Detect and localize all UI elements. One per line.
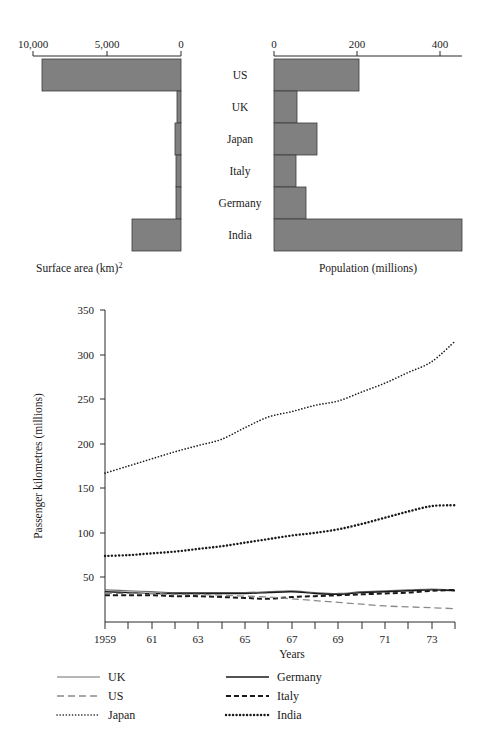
right-bar-germany	[274, 187, 306, 219]
category-label-japan: Japan	[227, 133, 253, 146]
x-axis-title: Years	[279, 648, 305, 660]
y-tick-labels-group: 350 300 250 200 150 100 50	[78, 304, 95, 583]
series-layer	[105, 341, 455, 608]
left-tick-label-2: 0	[178, 38, 184, 50]
left-tick-label-0: 10,000	[18, 38, 49, 50]
left-bar-italy	[176, 155, 181, 187]
population-pyramid-chart: 10,000 5,000 0 US UK Japan Italy Germany…	[0, 0, 494, 292]
y-tick-50: 50	[83, 571, 95, 583]
y-tick-200: 200	[78, 438, 95, 450]
series-line-japan	[105, 341, 455, 473]
category-label-us: US	[233, 69, 248, 81]
y-axis-title: Passenger kilometres (millions)	[32, 393, 45, 539]
chart-legend: UK US Japan Germany Italy India	[57, 670, 322, 722]
series-line-india	[105, 505, 455, 556]
right-tick-label-0: 0	[271, 38, 277, 50]
left-bar-japan	[175, 123, 181, 155]
right-bar-italy	[274, 155, 296, 187]
category-label-italy: Italy	[229, 165, 250, 178]
left-bar-uk	[177, 91, 181, 123]
figure-root: 10,000 5,000 0 US UK Japan Italy Germany…	[0, 0, 494, 738]
legend-label-italy: Italy	[277, 689, 299, 703]
category-label-uk: UK	[232, 101, 249, 113]
y-tick-100: 100	[78, 527, 95, 539]
right-bar-japan	[274, 123, 317, 155]
y-tick-300: 300	[78, 349, 95, 361]
x-tick-67: 67	[287, 633, 299, 645]
left-bar-us	[42, 59, 181, 91]
right-bar-india	[274, 219, 462, 251]
right-bars-group	[274, 59, 462, 251]
right-bar-uk	[274, 91, 297, 123]
y-tick-150: 150	[78, 482, 95, 494]
legend-label-india: India	[277, 708, 302, 722]
x-tick-labels-group: 1959 61 63 65 67 69 71 73	[94, 633, 438, 645]
category-labels-group: US UK Japan Italy Germany India	[219, 69, 262, 241]
left-chart-axis	[33, 51, 181, 56]
right-tick-label-2: 400	[432, 38, 449, 50]
left-bar-germany	[176, 187, 181, 219]
x-tick-69: 69	[333, 633, 345, 645]
y-tick-350: 350	[78, 304, 95, 316]
right-bar-us	[274, 59, 359, 91]
legend-label-uk: UK	[108, 670, 126, 684]
x-tick-73: 73	[427, 633, 439, 645]
line-chart-axes	[100, 310, 455, 629]
left-bar-india	[132, 219, 181, 251]
left-axis-title: Surface area (km)2	[36, 261, 122, 275]
y-tick-250: 250	[78, 393, 95, 405]
category-label-india: India	[228, 229, 252, 241]
x-tick-65: 65	[240, 633, 252, 645]
x-tick-71: 71	[380, 633, 391, 645]
x-tick-61: 61	[147, 633, 158, 645]
legend-label-us: US	[108, 689, 123, 703]
legend-label-japan: Japan	[108, 708, 135, 722]
right-tick-label-1: 200	[349, 38, 366, 50]
passenger-km-line-chart: 350 300 250 200 150 100 50 1959 61 63 65…	[0, 292, 494, 738]
right-axis-title: Population (millions)	[319, 262, 417, 275]
legend-label-germany: Germany	[277, 670, 322, 684]
right-chart-axis	[274, 51, 462, 56]
x-tick-63: 63	[193, 633, 205, 645]
left-tick-label-1: 5,000	[95, 38, 120, 50]
category-label-germany: Germany	[219, 197, 262, 210]
x-tick-1959: 1959	[94, 633, 117, 645]
left-bars-group	[42, 59, 181, 251]
